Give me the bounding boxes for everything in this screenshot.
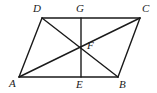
vertex-label-b: B [119,79,126,90]
vertex-label-e: E [76,79,83,90]
segment-DB [42,18,118,77]
vertex-label-a: A [9,78,16,89]
vertex-label-c: C [142,3,149,14]
vertex-label-g: G [76,3,84,14]
vertex-label-f: F [87,40,94,51]
geometry-figure: ABCDEFG [0,0,157,93]
segment-layer [19,18,140,77]
vertex-label-d: D [33,3,41,14]
